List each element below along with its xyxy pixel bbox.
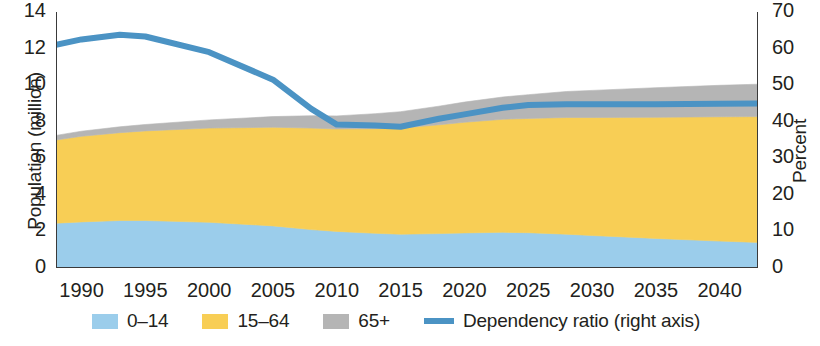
legend-color-swatch: [323, 314, 349, 329]
legend-label: Dependency ratio (right axis): [463, 310, 700, 332]
chart-legend: 0–1415–6465+Dependency ratio (right axis…: [92, 310, 734, 332]
legend-label: 0–14: [127, 310, 168, 332]
population-projection-chart: Population (million) Percent 02468101214…: [0, 0, 820, 346]
legend-label: 15–64: [237, 310, 289, 332]
x-axis-tick-label: 2005: [238, 279, 308, 302]
legend-item[interactable]: 15–64: [202, 310, 289, 332]
legend-item[interactable]: 0–14: [92, 310, 168, 332]
legend-item[interactable]: 65+: [323, 310, 390, 332]
x-axis-tick-label: 2010: [302, 279, 372, 302]
x-axis-tick-label: 2025: [493, 279, 563, 302]
legend-label: 65+: [358, 310, 390, 332]
chart-canvas: [56, 12, 758, 268]
x-axis-tick-label: 1990: [47, 279, 117, 302]
x-axis-tick-label: 2020: [429, 279, 499, 302]
x-axis-tick-label: 2015: [366, 279, 436, 302]
plot-area: [56, 12, 758, 268]
x-axis-tick-label: 2000: [174, 279, 244, 302]
x-axis-tick-label: 2035: [621, 279, 691, 302]
x-axis-tick-label: 2040: [685, 279, 755, 302]
legend-color-swatch: [92, 314, 118, 329]
legend-color-swatch: [202, 314, 228, 329]
x-axis-tick-label: 1995: [110, 279, 180, 302]
legend-item[interactable]: Dependency ratio (right axis): [424, 310, 700, 332]
legend-line-marker: [424, 318, 454, 324]
x-axis-tick-label: 2030: [557, 279, 627, 302]
